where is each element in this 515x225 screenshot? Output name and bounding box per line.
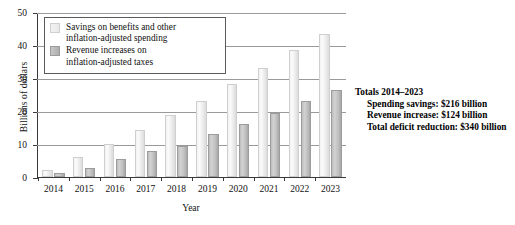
legend-swatch-savings-icon (50, 23, 60, 33)
bar-savings-2020 (227, 84, 238, 177)
x-tick-mark (223, 177, 224, 181)
bar-revenue-2018 (177, 146, 188, 177)
bar-revenue-2019 (208, 134, 219, 177)
y-tick-mark: 0 (33, 178, 37, 179)
legend-label-savings-line2: inflation-adjusted spending (66, 33, 167, 43)
bar-savings-2017 (135, 130, 146, 177)
legend-item-revenue: Revenue increases on inflation-adjusted … (50, 45, 220, 67)
y-tick-label: 30 (18, 74, 28, 84)
y-tick-mark: 50 (33, 13, 37, 14)
bar-revenue-2016 (116, 159, 127, 177)
bar-savings-2016 (104, 144, 115, 177)
legend-label-revenue: Revenue increases on inflation-adjusted … (66, 45, 153, 67)
bar-revenue-2017 (147, 151, 158, 177)
x-tick-mark (192, 177, 193, 181)
x-tick-mark (130, 177, 131, 181)
bar-group-2023 (315, 12, 346, 177)
bar-savings-2023 (319, 34, 330, 177)
totals-line-2: Total deficit reduction: $340 billion (367, 122, 506, 134)
x-tick-mark (38, 177, 39, 181)
x-tick-label-2018: 2018 (161, 184, 192, 194)
legend-label-revenue-line2: inflation-adjusted taxes (66, 57, 153, 67)
x-tick-mark (254, 177, 255, 181)
x-tick-mark (315, 177, 316, 181)
y-tick-label: 10 (18, 140, 28, 150)
x-tick-label-2019: 2019 (192, 184, 223, 194)
x-axis-title: Year (37, 203, 345, 213)
totals-line-1: Revenue increase: $124 billion (367, 110, 506, 122)
x-tick-label-2017: 2017 (130, 184, 161, 194)
bar-savings-2021 (258, 68, 269, 177)
bar-savings-2015 (73, 157, 84, 177)
bar-savings-2014 (42, 170, 53, 177)
legend-label-savings-line1: Savings on benefits and other (66, 22, 176, 32)
totals-heading: Totals 2014–2023 (355, 87, 506, 99)
x-tick-label-2014: 2014 (38, 184, 69, 194)
x-tick-mark (284, 177, 285, 181)
y-tick-label: 20 (18, 107, 28, 117)
y-tick-mark: 40 (33, 46, 37, 47)
bar-savings-2018 (165, 115, 176, 177)
chart-figure: Billions of dollars 01020304050 20142015… (0, 0, 515, 225)
x-tick-label-2022: 2022 (284, 184, 315, 194)
y-tick-label: 40 (18, 41, 28, 51)
bar-revenue-2021 (270, 113, 281, 177)
legend-label-revenue-line1: Revenue increases on (66, 45, 147, 55)
chart-legend: Savings on benefits and other inflation-… (44, 17, 226, 74)
bar-revenue-2020 (239, 124, 250, 177)
y-tick-label: 50 (18, 8, 28, 18)
x-tick-label-2023: 2023 (315, 184, 346, 194)
x-tick-label-2015: 2015 (69, 184, 100, 194)
bar-revenue-2014 (54, 173, 65, 177)
y-tick-mark: 30 (33, 79, 37, 80)
bar-group-2022 (284, 12, 315, 177)
bar-savings-2019 (196, 101, 207, 177)
y-tick-mark: 10 (33, 145, 37, 146)
totals-annotation: Totals 2014–2023 Spending savings: $216 … (355, 87, 506, 133)
x-tick-mark (100, 177, 101, 181)
x-tick-mark (69, 177, 70, 181)
bar-group-2020 (223, 12, 254, 177)
bar-revenue-2023 (331, 90, 342, 177)
totals-list: Spending savings: $216 billionRevenue in… (355, 99, 506, 134)
x-tick-mark (161, 177, 162, 181)
legend-item-savings: Savings on benefits and other inflation-… (50, 22, 220, 44)
legend-label-savings: Savings on benefits and other inflation-… (66, 22, 176, 44)
bar-group-2021 (254, 12, 285, 177)
bar-revenue-2015 (85, 168, 96, 177)
x-tick-label-2020: 2020 (223, 184, 254, 194)
legend-swatch-revenue-icon (50, 46, 60, 56)
totals-line-0: Spending savings: $216 billion (367, 99, 506, 111)
bar-revenue-2022 (301, 101, 312, 177)
bar-savings-2022 (289, 50, 300, 177)
x-tick-label-2021: 2021 (254, 184, 285, 194)
x-tick-label-2016: 2016 (100, 184, 131, 194)
y-tick-label: 0 (22, 173, 27, 183)
y-tick-mark: 20 (33, 112, 37, 113)
x-axis-tick-labels: 2014201520162017201820192020202120222023 (38, 184, 346, 194)
